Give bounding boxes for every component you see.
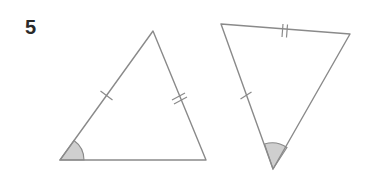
- single-tick-mark-left: [101, 91, 113, 100]
- triangle-left-outline: [60, 31, 206, 160]
- triangle-left: [60, 31, 206, 160]
- double-tick-mark-right: [282, 24, 288, 38]
- triangle-right: [221, 24, 350, 169]
- triangle-right-outline: [221, 24, 350, 169]
- triangles-diagram: [0, 0, 368, 184]
